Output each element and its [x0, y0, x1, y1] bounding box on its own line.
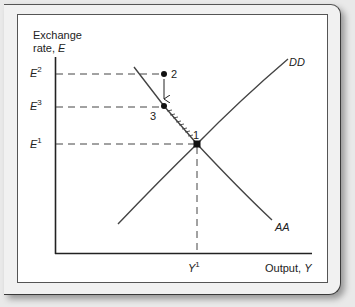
tick-e2: E2 — [30, 65, 42, 79]
label-aa: AA — [274, 221, 290, 233]
point-1 — [194, 141, 201, 148]
y-axis-label-line1: Exchange — [33, 29, 82, 41]
guide-lines — [56, 74, 197, 253]
tick-e1: E1 — [30, 136, 42, 150]
dd-aa-diagram: Exchange rate, E E2 E3 E1 — [0, 0, 355, 307]
x-axis-label: Output, Y — [265, 262, 312, 274]
label-point-2: 2 — [171, 68, 177, 80]
tick-y1: Y1 — [188, 260, 200, 274]
label-dd: DD — [289, 56, 305, 68]
tick-e3: E3 — [30, 98, 42, 112]
label-point-3: 3 — [150, 110, 156, 122]
point-3 — [161, 103, 167, 109]
dd-curve — [118, 59, 288, 224]
diagram-canvas: Exchange rate, E E2 E3 E1 — [0, 0, 355, 307]
label-point-1: 1 — [193, 129, 199, 141]
point-2 — [161, 71, 167, 77]
y-axis-label-line2: rate, E — [33, 42, 66, 54]
